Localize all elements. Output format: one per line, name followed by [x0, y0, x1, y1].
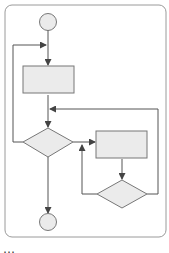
diagram-frame: [5, 5, 166, 237]
process-node-2: [96, 131, 147, 158]
start-node: [40, 14, 57, 31]
flowchart: [0, 0, 169, 240]
process-node-1: [23, 66, 74, 93]
figure-caption: …: [3, 242, 169, 253]
end-node: [40, 214, 57, 231]
